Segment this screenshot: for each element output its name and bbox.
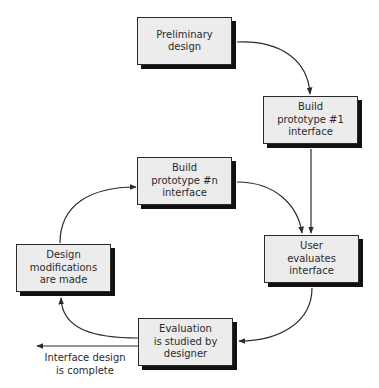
exit-label: Interface design is complete — [40, 351, 130, 377]
node-user-evaluates: User evaluates interface — [264, 235, 359, 283]
node-label: Evaluation is studied by designer — [154, 323, 218, 361]
node-label: Build prototype #n interface — [151, 162, 218, 200]
arrow-preliminary-to-proto1 — [237, 42, 310, 94]
node-preliminary-design: Preliminary design — [137, 17, 232, 65]
node-label: Preliminary design — [156, 29, 212, 54]
node-evaluation-studied: Evaluation is studied by designer — [138, 318, 233, 366]
arrow-modifications-to-protoN — [60, 187, 136, 243]
arrow-user-to-evaluation — [239, 288, 312, 341]
node-label: Design modifications are made — [30, 249, 97, 287]
node-build-prototype-n: Build prototype #n interface — [137, 157, 232, 205]
arrow-protoN-to-user — [237, 182, 302, 233]
node-label: Build prototype #1 interface — [277, 101, 344, 139]
arrow-evaluation-to-modifications — [61, 298, 138, 338]
node-label: User evaluates interface — [287, 240, 336, 278]
node-design-modifications: Design modifications are made — [16, 244, 111, 292]
node-build-prototype-1: Build prototype #1 interface — [263, 96, 358, 144]
